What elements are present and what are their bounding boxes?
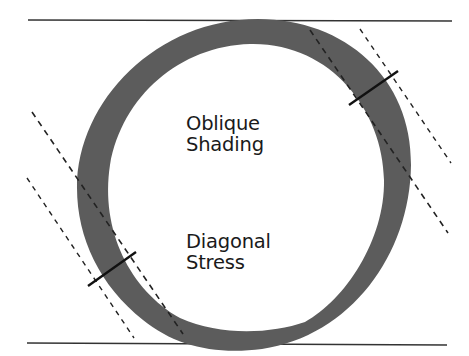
label-line: Shading bbox=[186, 134, 264, 155]
stroke-ring bbox=[77, 19, 411, 351]
right-inner-stress-dash-line bbox=[310, 30, 448, 233]
label-line: Diagonal bbox=[186, 231, 271, 252]
label-line: Stress bbox=[186, 252, 271, 273]
label-line: Oblique bbox=[186, 113, 264, 134]
oblique-shading-label: Oblique Shading bbox=[186, 113, 264, 155]
diagonal-stress-label: Diagonal Stress bbox=[186, 231, 271, 273]
letter-o-stress-diagram bbox=[0, 0, 469, 356]
